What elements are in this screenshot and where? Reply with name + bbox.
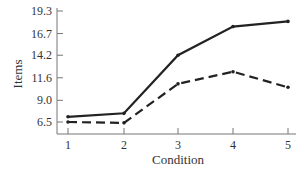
x-axis-label: Condition [152, 152, 205, 167]
data-point [122, 112, 126, 116]
y-tick-label: 19.3 [31, 4, 52, 18]
data-point [176, 82, 180, 86]
x-tick-label: 4 [230, 138, 236, 152]
data-point [231, 70, 235, 74]
data-lines [66, 20, 290, 125]
y-tick-label: 9.0 [37, 93, 52, 107]
data-point [122, 121, 126, 125]
data-point [176, 53, 180, 57]
line-chart: 6.59.011.614.216.719.3 12345 Items Condi… [0, 0, 308, 174]
data-point [66, 120, 70, 124]
chart-svg: 6.59.011.614.216.719.3 12345 Items Condi… [0, 0, 308, 174]
y-tick-label: 14.2 [31, 48, 52, 62]
y-axis-ticks: 6.59.011.614.216.719.3 [31, 4, 63, 129]
x-tick-label: 2 [121, 138, 127, 152]
y-axis-label: Items [10, 60, 25, 89]
y-tick-label: 16.7 [31, 27, 52, 41]
data-point [66, 115, 70, 119]
data-point [286, 20, 290, 24]
x-tick-label: 3 [175, 138, 181, 152]
x-axis-ticks: 12345 [65, 128, 291, 152]
x-tick-label: 5 [285, 138, 291, 152]
y-tick-label: 11.6 [31, 71, 52, 85]
data-point [286, 86, 290, 90]
y-tick-label: 6.5 [37, 115, 52, 129]
data-point [231, 25, 235, 29]
series-line-1 [68, 21, 288, 116]
x-tick-label: 1 [65, 138, 71, 152]
